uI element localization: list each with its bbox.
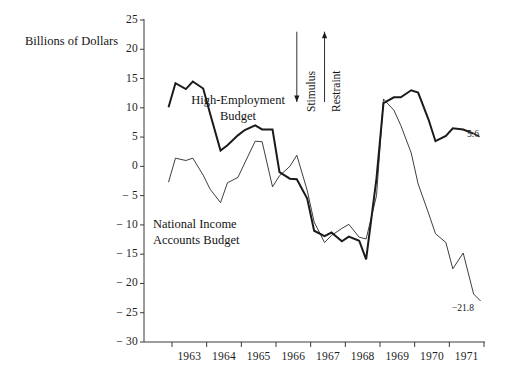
series-line-high-employment-budget bbox=[169, 81, 474, 259]
axes bbox=[140, 19, 485, 347]
leader-high-employment-budget bbox=[474, 134, 480, 137]
chart-figure: Billions of Dollars 2520151050− 5− 10− 1… bbox=[0, 0, 509, 378]
stimulus-arrow-head bbox=[294, 95, 299, 102]
restraint-arrow-head bbox=[322, 32, 327, 39]
annotation-arrows bbox=[294, 32, 327, 102]
data-series bbox=[169, 81, 481, 301]
plot-canvas bbox=[0, 0, 509, 378]
leader-national-income-accounts-budget bbox=[474, 294, 481, 301]
